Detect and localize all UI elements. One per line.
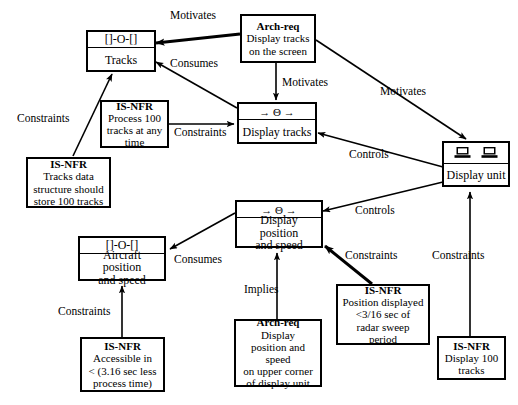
node-display-tracks-process[interactable]: → Θ → Display tracks [237,102,317,144]
data-store-icon: []-O-[] [88,32,154,48]
edge-motivates-tracks [156,34,240,43]
req-kind-label: IS-NFR [453,340,490,352]
node-tracks-store[interactable]: []-O-[] Tracks [86,30,156,72]
edge-label-constraints-accessible: Constraints [58,305,110,317]
edge-label-constraints-display100: Constraints [432,249,484,261]
edge-label-motivates-tracks: Motivates [170,9,216,21]
edge-label-implies-position: Implies [244,283,279,295]
edge-label-constraints-position-displayed: Constraints [345,249,397,261]
node-label: Display tracks [239,120,315,144]
node-arch-req-display-position[interactable]: Arch-req Display position and speed on u… [234,319,322,387]
node-label: Tracks [88,48,154,72]
node-arch-req-display-tracks[interactable]: Arch-req Display tracks on the screen [240,14,316,63]
node-display-unit[interactable]: Display unit [442,141,510,187]
req-kind-label: IS-NFR [116,100,153,112]
node-nfr-position-displayed[interactable]: IS-NFR Position displayed <3/16 sec of r… [336,284,430,345]
node-nfr-display-100[interactable]: IS-NFR Display 100 tracks [437,336,506,380]
req-kind-label: IS-NFR [104,340,141,352]
edge-label-controls-display-position: Controls [355,204,395,216]
monitor-icon-right [481,146,498,160]
process-transform-icon: → Θ → [239,104,315,120]
edge-consumes-aircraft [170,213,235,249]
node-label: Display unit [444,164,508,187]
req-body-text: Accessible in < (3.16 sec less process t… [89,352,157,389]
node-nfr-tracks-data[interactable]: IS-NFR Tracks data structure should stor… [26,157,111,208]
req-kind-label: IS-NFR [50,158,87,170]
req-body-text: Process 100 tracks at any time [107,112,163,149]
edge-label-motivates-display-tracks: Motivates [282,76,328,88]
edge-label-constraints-process100: Constraints [174,126,226,138]
req-body-text: Tracks data structure should store 100 t… [33,170,104,207]
node-nfr-accessible[interactable]: IS-NFR Accessible in < (3.16 sec less pr… [80,337,165,392]
edge-label-consumes-tracks: Consumes [170,57,218,69]
req-body-text: Position displayed <3/16 sec of radar sw… [343,296,424,345]
node-label: Aircraft position and speed [80,254,164,281]
edge-label-consumes-aircraft: Consumes [174,253,222,265]
requirements-traceability-diagram: []-O-[] Tracks Arch-req Display tracks o… [0,0,518,405]
monitor-icon-left [454,146,471,160]
node-label: Display position and speed [237,218,321,248]
node-display-position-process[interactable]: → Θ → Display position and speed [235,200,323,248]
node-nfr-process-100[interactable]: IS-NFR Process 100 tracks at any time [100,100,169,148]
req-body-text: Display position and speed on upper corn… [239,329,317,390]
req-kind-label: Arch-req [257,316,300,328]
req-body-text: Display 100 tracks [445,352,498,376]
edge-label-motivates-display-unit: Motivates [380,85,426,97]
req-kind-label: IS-NFR [365,284,402,296]
req-kind-label: Arch-req [257,20,300,32]
node-aircraft-store[interactable]: []-O-[] Aircraft position and speed [78,236,166,281]
two-monitors-icon [444,143,508,164]
edge-label-constraints-tracksdata: Constraints [17,112,69,124]
req-body-text: Display tracks on the screen [246,32,309,56]
edge-label-controls-display-tracks: Controls [349,148,389,160]
